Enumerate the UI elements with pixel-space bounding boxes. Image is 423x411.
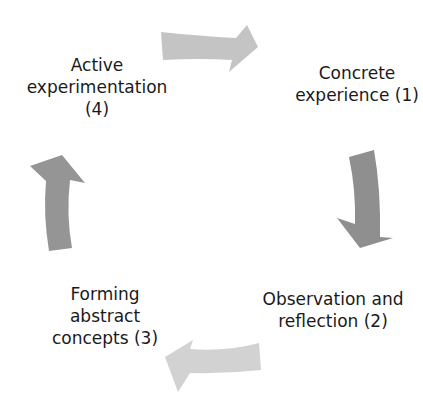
stage-1-line-2: experience (1) [290,84,423,106]
stage-3-line-1: Forming [45,283,165,305]
stage-forming-abstract-concepts: Forming abstract concepts (3) [45,283,165,349]
stage-3-line-3: concepts (3) [45,327,165,349]
arrow-left-icon [165,340,261,392]
stage-concrete-experience: Concrete experience (1) [290,62,423,106]
stage-3-line-2: abstract [45,305,165,327]
arrow-down-icon [337,150,393,248]
stage-2-line-1: Observation and [252,288,414,310]
stage-4-line-2: experimentation [26,76,168,98]
stage-2-line-2: reflection (2) [252,310,414,332]
stage-4-line-1: Active [26,54,168,76]
stage-observation-reflection: Observation and reflection (2) [252,288,414,332]
stage-1-line-1: Concrete [290,62,423,84]
arrow-right-icon [161,25,258,72]
stage-4-line-3: (4) [26,98,168,120]
arrow-up-icon [30,155,85,251]
stage-active-experimentation: Active experimentation (4) [26,54,168,120]
